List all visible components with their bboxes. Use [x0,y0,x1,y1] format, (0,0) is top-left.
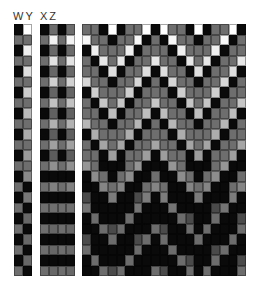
main-cell [194,98,203,109]
main-cell [194,119,203,130]
xz-cell [40,245,49,256]
main-cell [108,119,117,130]
main-cell [151,213,160,224]
xz-cell [40,182,49,193]
main-cell [142,245,151,256]
xz-cell [66,24,75,35]
xz-cell [40,45,49,56]
main-cell [177,150,186,161]
main-cell [220,77,229,88]
main-cell [220,182,229,193]
main-cell [82,182,91,193]
main-cell [211,161,220,172]
xz-cell [49,24,58,35]
main-cell [117,224,126,235]
wy-cell [14,24,23,35]
main-cell [125,255,134,266]
main-cell [134,213,143,224]
main-cell [160,77,169,88]
main-cell [220,35,229,46]
main-cell [211,24,220,35]
main-cell [160,224,169,235]
main-cell [203,171,212,182]
main-cell [125,24,134,35]
main-cell [237,45,246,56]
main-cell [151,245,160,256]
main-cell [117,266,126,277]
xz-cell [49,150,58,161]
main-cell [142,140,151,151]
main-cell [177,56,186,67]
main-cell [229,234,238,245]
main-cell [117,66,126,77]
main-cell [194,77,203,88]
xz-cell [58,234,67,245]
main-cell [186,87,195,98]
xz-cell [66,182,75,193]
main-cell [134,192,143,203]
main-cell [117,171,126,182]
main-cell [160,129,169,140]
main-cell [237,150,246,161]
xz-cell [58,255,67,266]
xz-cell [58,108,67,119]
wy-cell [14,224,23,235]
main-cell [151,98,160,109]
main-cell [229,161,238,172]
main-cell [91,129,100,140]
wy-cell [14,77,23,88]
xz-cell [66,119,75,130]
main-cell [99,234,108,245]
main-cell [229,56,238,67]
main-cell [237,77,246,88]
main-cell [168,182,177,193]
main-cell [220,266,229,277]
main-cell [125,213,134,224]
main-cell [168,266,177,277]
label-xz: XZ [40,11,58,22]
main-cell [99,171,108,182]
main-cell [186,66,195,77]
main-cell [134,182,143,193]
main-cell [220,66,229,77]
xz-cell [66,150,75,161]
main-cell [168,98,177,109]
main-cell [237,161,246,172]
main-cell [168,245,177,256]
xz-cell [66,255,75,266]
main-cell [168,224,177,235]
xz-cell [40,203,49,214]
main-cell [151,192,160,203]
main-cell [168,203,177,214]
main-cell [125,224,134,235]
main-cell [117,129,126,140]
main-cell [211,266,220,277]
main-cell [108,213,117,224]
main-cell [125,56,134,67]
main-cell [125,77,134,88]
main-cell [168,35,177,46]
main-cell [134,171,143,182]
main-cell [211,45,220,56]
main-cell [151,77,160,88]
main-cell [229,182,238,193]
main-cell [237,203,246,214]
wy-cell [14,192,23,203]
main-cell [237,234,246,245]
main-cell [229,140,238,151]
main-cell [168,192,177,203]
main-cell [125,108,134,119]
xz-cell [58,98,67,109]
xz-cell [58,45,67,56]
wy-cell [23,108,32,119]
main-cell [117,203,126,214]
xz-cell [49,35,58,46]
main-cell [168,161,177,172]
main-cell [142,161,151,172]
main-cell [134,150,143,161]
main-cell [82,161,91,172]
main-cell [220,213,229,224]
xz-cell [58,224,67,235]
main-cell [160,234,169,245]
xz-cell [49,171,58,182]
